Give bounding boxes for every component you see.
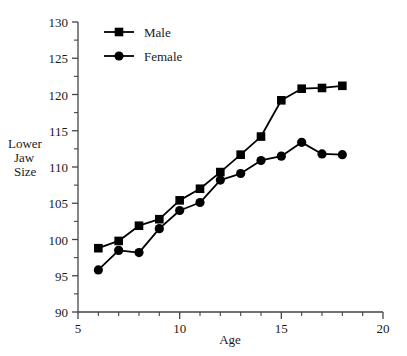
- data-point-male: [338, 82, 347, 91]
- y-tick-label: 120: [49, 88, 69, 103]
- x-axis-title: Age: [219, 332, 241, 347]
- legend-label-female: Female: [144, 49, 182, 64]
- legend-label-male: Male: [144, 25, 171, 40]
- x-tick-label: 20: [377, 321, 390, 336]
- data-point-female: [338, 150, 347, 159]
- y-tick-label: 90: [55, 305, 68, 320]
- y-axis-title-line-1: Lower: [8, 136, 43, 151]
- legend-circle-marker-icon: [114, 51, 123, 60]
- y-tick-label: 125: [49, 51, 69, 66]
- data-point-female: [134, 248, 143, 257]
- data-point-male: [175, 196, 184, 205]
- x-tick-label: 5: [75, 321, 82, 336]
- legend-square-marker-icon: [115, 28, 124, 37]
- data-point-female: [216, 175, 225, 184]
- y-tick-label: 95: [55, 269, 68, 284]
- x-tick-label: 15: [275, 321, 288, 336]
- data-point-male: [94, 244, 103, 253]
- chart-container: 9095100105110115120125130 5101520 MaleFe…: [0, 0, 407, 356]
- y-axis-title-line-2: Jaw: [14, 150, 35, 165]
- data-point-female: [195, 198, 204, 207]
- y-tick-label: 105: [49, 196, 69, 211]
- data-point-male: [135, 221, 144, 230]
- data-point-female: [155, 224, 164, 233]
- data-point-male: [216, 168, 225, 177]
- data-point-male: [114, 237, 123, 246]
- data-point-female: [297, 138, 306, 147]
- y-axis-title-line-3: Size: [14, 164, 37, 179]
- y-tick-label: 100: [49, 233, 69, 248]
- data-point-female: [114, 246, 123, 255]
- y-tick-label: 130: [49, 15, 69, 30]
- x-tick-label: 10: [173, 321, 186, 336]
- data-point-male: [236, 150, 245, 159]
- y-tick-label: 110: [49, 160, 68, 175]
- data-point-male: [297, 84, 306, 93]
- data-point-male: [196, 184, 205, 193]
- data-point-male: [155, 215, 164, 224]
- data-point-male: [277, 96, 286, 105]
- data-point-female: [236, 169, 245, 178]
- data-point-female: [277, 152, 286, 161]
- data-point-female: [317, 149, 326, 158]
- data-point-female: [175, 206, 184, 215]
- data-point-male: [257, 132, 266, 141]
- data-point-male: [318, 84, 327, 93]
- lower-jaw-size-vs-age-line-chart: 9095100105110115120125130 5101520 MaleFe…: [0, 0, 407, 356]
- data-point-female: [94, 265, 103, 274]
- y-tick-label: 115: [49, 124, 68, 139]
- data-point-female: [256, 156, 265, 165]
